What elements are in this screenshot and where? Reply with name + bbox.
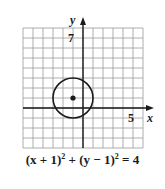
center-point xyxy=(70,95,75,100)
equation-caption: (x + 1)2 + (y − 1)2 = 4 xyxy=(0,152,165,168)
eq-rhs: = 4 xyxy=(119,152,139,167)
y-axis-arrow-icon xyxy=(80,17,86,25)
x-axis-label: x xyxy=(146,111,153,125)
y-axis-label: y xyxy=(68,13,76,27)
eq-plus: + xyxy=(65,152,79,167)
eq-term-1: (x + 1) xyxy=(26,152,62,167)
eq-term-2: (y − 1) xyxy=(79,152,115,167)
y-tick-label: 7 xyxy=(68,31,74,45)
x-tick-label: 5 xyxy=(128,111,134,125)
